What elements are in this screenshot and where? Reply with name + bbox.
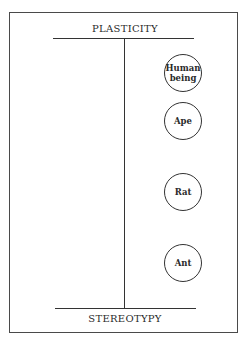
bottom-axis-line bbox=[55, 308, 196, 309]
stereotypy-label: STEREOTYPY bbox=[60, 313, 190, 324]
node-label-line1: Human bbox=[166, 63, 201, 73]
vertical-axis-line bbox=[124, 38, 125, 308]
node-label: Ant bbox=[175, 258, 192, 268]
plasticity-label: PLASTICITY bbox=[60, 23, 190, 34]
node-label: Ape bbox=[174, 116, 192, 126]
node-label: Rat bbox=[175, 187, 192, 197]
node-human-being: Human being bbox=[164, 54, 202, 92]
node-rat: Rat bbox=[164, 173, 202, 211]
node-label-line2: being bbox=[166, 73, 201, 83]
node-ant: Ant bbox=[164, 244, 202, 282]
node-ape: Ape bbox=[164, 102, 202, 140]
